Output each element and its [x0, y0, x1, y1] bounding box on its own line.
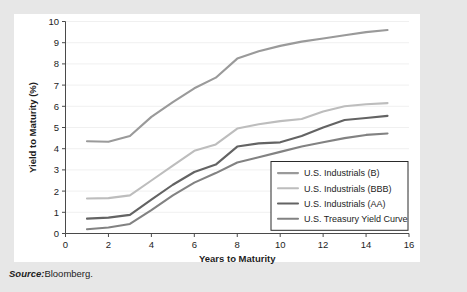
- figure-root: 0246810121416 012345678910 Years to Matu…: [0, 0, 467, 292]
- x-tick-label: 16: [404, 239, 415, 250]
- x-axis-tick-labels: 0246810121416: [63, 239, 414, 250]
- chart-canvas: 0246810121416 012345678910 Years to Matu…: [0, 0, 467, 292]
- y-tick-label: 0: [54, 228, 59, 239]
- legend-item-label: U.S. Industrials (B): [304, 168, 380, 178]
- y-tick-label: 3: [54, 164, 59, 175]
- x-tick-label: 14: [361, 239, 372, 250]
- x-tick-label: 2: [106, 239, 111, 250]
- source-value: Bloomberg.: [44, 268, 93, 279]
- line-chart: 0246810121416 012345678910 Years to Matu…: [0, 0, 467, 292]
- y-tick-label: 8: [54, 58, 59, 69]
- legend-item-label: U.S. Industrials (AA): [304, 199, 386, 209]
- y-tick-label: 2: [54, 186, 59, 197]
- y-tick-label: 1: [54, 207, 59, 218]
- y-tick-label: 7: [54, 80, 59, 91]
- x-tick-label: 8: [235, 239, 240, 250]
- source-label: Source:: [9, 268, 44, 279]
- y-tick-label: 9: [54, 37, 59, 48]
- source-note: Source:Bloomberg.: [9, 268, 93, 279]
- x-tick-label: 12: [318, 239, 329, 250]
- y-tick-label: 6: [54, 101, 59, 112]
- legend-item-label: U.S. Industrials (BBB): [304, 184, 392, 194]
- x-axis-title: Years to Maturity: [199, 253, 276, 264]
- legend-item-label: U.S. Treasury Yield Curve: [304, 214, 408, 224]
- y-tick-label: 5: [54, 122, 59, 133]
- y-tick-label: 10: [48, 16, 59, 27]
- x-tick-label: 6: [192, 239, 197, 250]
- chart-legend: U.S. Industrials (B)U.S. Industrials (BB…: [271, 162, 408, 231]
- y-axis-ticks: [62, 22, 66, 234]
- y-tick-label: 4: [54, 143, 59, 154]
- y-axis-tick-labels: 012345678910: [48, 16, 59, 239]
- x-axis-ticks: [66, 234, 410, 238]
- series-line: [87, 30, 388, 142]
- x-tick-label: 0: [63, 239, 68, 250]
- y-axis-title: Yield to Maturity (%): [27, 82, 38, 173]
- x-tick-label: 10: [275, 239, 286, 250]
- x-tick-label: 4: [149, 239, 154, 250]
